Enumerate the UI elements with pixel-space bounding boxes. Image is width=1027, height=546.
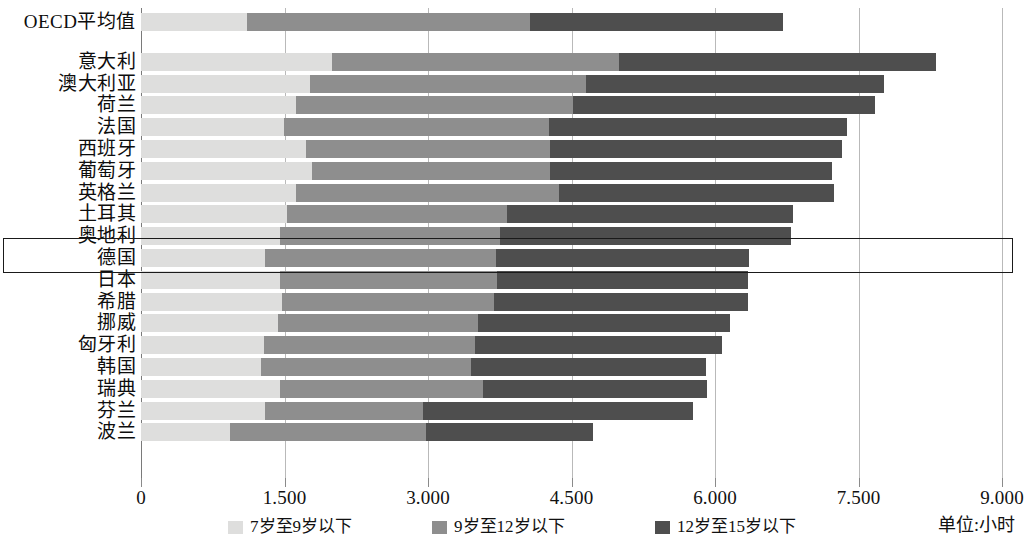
x-tick-label: 0	[81, 487, 201, 509]
category-label: 土耳其	[78, 203, 137, 224]
bar-segment	[573, 96, 874, 114]
bar-segment	[284, 118, 549, 136]
x-tick	[572, 478, 573, 487]
category-label: 匈牙利	[78, 334, 137, 355]
bar-row: 挪威	[0, 312, 1027, 334]
bar-row: 奥地利	[0, 225, 1027, 247]
bar-segment	[296, 96, 573, 114]
legend-swatch	[655, 521, 670, 534]
bar-row: 土耳其	[0, 203, 1027, 225]
stacked-bar	[141, 13, 783, 31]
x-tick-label: 7.500	[799, 487, 919, 509]
bar-segment	[494, 293, 748, 311]
x-tick	[1002, 478, 1003, 487]
stacked-bar	[141, 402, 693, 420]
x-tick-label: 3.000	[368, 487, 488, 509]
x-tick	[141, 478, 142, 487]
bar-row: 澳大利亚	[0, 73, 1027, 95]
bar-segment	[141, 75, 310, 93]
legend-swatch	[432, 521, 447, 534]
bar-segment	[141, 271, 280, 289]
bar-segment	[141, 293, 282, 311]
stacked-bar	[141, 118, 847, 136]
bar-segment	[280, 380, 484, 398]
bar-row: 英格兰	[0, 182, 1027, 204]
bar-segment	[141, 314, 278, 332]
stacked-bar	[141, 336, 722, 354]
bar-row: 西班牙	[0, 138, 1027, 160]
bar-segment	[141, 140, 306, 158]
bar-segment	[141, 227, 280, 245]
bar-segment	[332, 53, 619, 71]
category-label: 法国	[97, 116, 136, 137]
bar-segment	[312, 162, 550, 180]
bar-segment	[475, 336, 722, 354]
bar-segment	[141, 96, 296, 114]
stacked-bar	[141, 140, 842, 158]
bar-segment	[306, 140, 551, 158]
stacked-bar	[141, 423, 593, 441]
stacked-bar	[141, 293, 748, 311]
category-label: 西班牙	[78, 138, 137, 159]
stacked-bar	[141, 249, 749, 267]
bar-row: 波兰	[0, 421, 1027, 443]
bar-segment	[141, 423, 230, 441]
bar-row: 韩国	[0, 356, 1027, 378]
stacked-bar-chart: 01.5003.0004.5006.0007.5009.000 OECD平均值意…	[0, 0, 1027, 546]
bar-segment	[550, 140, 841, 158]
bar-row: OECD平均值	[0, 11, 1027, 33]
unit-label: 单位:小时	[938, 515, 1015, 535]
bar-segment	[282, 293, 494, 311]
category-label: 波兰	[97, 421, 136, 442]
bar-segment	[280, 271, 497, 289]
bar-row: 德国	[0, 247, 1027, 269]
category-label: 韩国	[97, 356, 136, 377]
category-label: 希腊	[97, 291, 136, 312]
category-label: 意大利	[78, 51, 137, 72]
x-tick-label: 4.500	[512, 487, 632, 509]
bar-segment	[497, 271, 748, 289]
stacked-bar	[141, 358, 706, 376]
category-label: OECD平均值	[24, 11, 136, 32]
bar-segment	[141, 118, 284, 136]
bar-row: 法国	[0, 116, 1027, 138]
x-tick-label: 1.500	[225, 487, 345, 509]
stacked-bar	[141, 380, 707, 398]
stacked-bar	[141, 227, 791, 245]
category-label: 挪威	[97, 312, 136, 333]
legend-label: 9岁至12岁以下	[454, 517, 565, 537]
x-tick	[428, 478, 429, 487]
category-label: 日本	[97, 269, 136, 290]
legend: 7岁至9岁以下9岁至12岁以下12岁至15岁以下 单位:小时	[0, 515, 1027, 545]
x-tick	[285, 478, 286, 487]
bar-segment	[280, 227, 500, 245]
stacked-bar	[141, 314, 730, 332]
bar-segment	[141, 336, 264, 354]
bar-segment	[278, 314, 478, 332]
bar-segment	[471, 358, 706, 376]
bar-segment	[310, 75, 586, 93]
legend-item[interactable]: 7岁至9岁以下	[228, 517, 352, 537]
category-label: 澳大利亚	[58, 73, 136, 94]
bar-segment	[141, 53, 332, 71]
bar-row: 匈牙利	[0, 334, 1027, 356]
bar-segment	[496, 249, 749, 267]
bar-segment	[141, 184, 296, 202]
category-label: 瑞典	[97, 378, 136, 399]
bar-segment	[265, 402, 423, 420]
legend-item[interactable]: 12岁至15岁以下	[655, 517, 796, 537]
bar-row: 芬兰	[0, 400, 1027, 422]
legend-item[interactable]: 9岁至12岁以下	[432, 517, 565, 537]
category-label: 奥地利	[78, 225, 137, 246]
legend-swatch	[228, 521, 243, 534]
category-label: 荷兰	[97, 94, 136, 115]
bar-row: 意大利	[0, 51, 1027, 73]
bar-segment	[423, 402, 693, 420]
bar-segment	[478, 314, 731, 332]
bar-segment	[426, 423, 592, 441]
bar-segment	[230, 423, 426, 441]
bar-segment	[141, 162, 312, 180]
category-label: 芬兰	[97, 400, 136, 421]
bar-segment	[264, 336, 474, 354]
stacked-bar	[141, 184, 834, 202]
